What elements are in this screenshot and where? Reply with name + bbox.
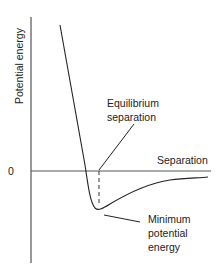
equilibrium-label-line1: Equilibrium bbox=[107, 96, 159, 110]
minimum-label-line2: potential bbox=[148, 226, 188, 240]
minimum-label-line3: energy bbox=[148, 240, 180, 254]
equilibrium-leader-line bbox=[99, 124, 134, 170]
minimum-leader-line bbox=[104, 215, 140, 222]
zero-label: 0 bbox=[8, 164, 14, 178]
minimum-label-line1: Minimum bbox=[148, 212, 191, 226]
potential-energy-diagram bbox=[0, 0, 224, 274]
y-axis-label: Potential energy bbox=[13, 28, 25, 104]
equilibrium-label-line2: separation bbox=[107, 110, 156, 124]
x-axis-label: Separation bbox=[157, 153, 208, 167]
